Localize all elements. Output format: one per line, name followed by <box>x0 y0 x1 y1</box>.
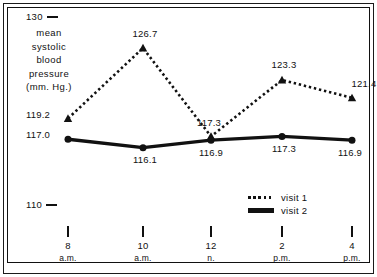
series-visit-2-marker-4 <box>279 133 286 140</box>
legend: visit 1 visit 2 <box>248 191 307 217</box>
data-label-visit-1-8: 119.2 <box>24 109 52 120</box>
legend-item-visit-1: visit 1 <box>248 191 307 204</box>
data-label-visit-1-12: 117.3 <box>195 117 223 128</box>
x-axis-tick-group-5: 4p.m. <box>335 226 369 264</box>
figure: mean systolic blood pressure (mm. Hg.) 1… <box>0 0 377 277</box>
x-axis-meridiem-label-3: n. <box>194 252 228 264</box>
data-label-visit-2-10: 116.1 <box>131 154 159 165</box>
x-axis-tick-group-2: 10a.m. <box>126 226 160 264</box>
legend-swatch-dotted-icon <box>248 196 274 200</box>
data-label-visit-1-10: 126.7 <box>131 28 159 39</box>
data-label-visit-1-2: 123.3 <box>270 59 298 70</box>
x-axis-tick-mark-4 <box>281 226 283 237</box>
series-visit-2-marker-5 <box>349 137 356 144</box>
series-visit-2-marker-3 <box>208 137 215 144</box>
legend-label-visit-1: visit 1 <box>281 192 307 203</box>
series-visit-1-marker-2 <box>139 44 147 52</box>
x-axis-hour-label-1: 8 <box>51 240 85 252</box>
x-axis-tick-mark-5 <box>351 226 353 237</box>
series-visit-1-marker-1 <box>64 114 72 122</box>
data-label-visit-2-2: 117.3 <box>270 143 298 154</box>
legend-item-visit-2: visit 2 <box>248 204 307 217</box>
legend-label-visit-2: visit 2 <box>281 205 307 216</box>
x-axis-meridiem-label-1: a.m. <box>51 252 85 264</box>
x-axis-tick-mark-1 <box>67 226 69 237</box>
x-axis-meridiem-label-4: p.m. <box>265 252 299 264</box>
legend-swatch-solid-icon <box>248 208 274 213</box>
data-label-visit-2-4: 116.9 <box>336 147 364 158</box>
series-visit-2-marker-1 <box>65 136 72 143</box>
data-label-visit-2-12: 116.9 <box>197 147 225 158</box>
x-axis-meridiem-label-5: p.m. <box>335 252 369 264</box>
series-visit-2-marker-2 <box>140 144 147 151</box>
x-axis-hour-label-3: 12 <box>194 240 228 252</box>
data-label-visit-1-4: 121.4 <box>350 78 377 89</box>
x-axis-tick-group-1: 8a.m. <box>51 226 85 264</box>
x-axis-meridiem-label-2: a.m. <box>126 252 160 264</box>
x-axis-hour-label-5: 4 <box>335 240 369 252</box>
data-label-visit-2-8: 117.0 <box>24 129 52 140</box>
x-axis-tick-group-4: 2p.m. <box>265 226 299 264</box>
x-axis-tick-group-3: 12n. <box>194 226 228 264</box>
x-axis-hour-label-4: 2 <box>265 240 299 252</box>
x-axis-hour-label-2: 10 <box>126 240 160 252</box>
x-axis-tick-mark-2 <box>142 226 144 237</box>
x-axis-tick-mark-3 <box>210 226 212 237</box>
